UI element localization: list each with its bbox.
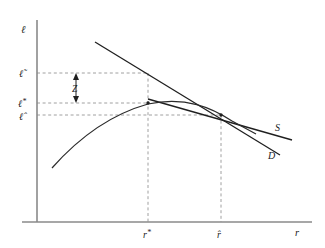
x-axis-label: r: [295, 227, 300, 238]
curve-label-s: S: [275, 122, 280, 133]
gap-arrow-head-down: [73, 96, 79, 103]
y-axis-label: ℓ: [21, 24, 26, 35]
x-tick-label-r-star: r*: [143, 228, 151, 241]
y-tick-label-ell-tilde: ℓ̃: [19, 68, 27, 79]
x-tick-label-r-star-superscript: *: [147, 228, 151, 237]
intersection-point-marker: [219, 113, 222, 116]
demand-line-d: [95, 42, 280, 155]
concave-curve: [52, 101, 256, 168]
y-tick-label-ell-star-superscript: *: [22, 97, 26, 106]
economics-diagram: ℓ r ℓ̃ ℓ* ℓ̂ r* r̂ Z S D: [0, 0, 325, 248]
y-tick-label-ell-star: ℓ*: [18, 97, 26, 110]
x-tick-label-r-hat: r̂: [217, 229, 221, 240]
supply-line-s: [148, 99, 292, 140]
figure-container: ℓ r ℓ̃ ℓ* ℓ̂ r* r̂ Z S D: [0, 0, 325, 248]
gap-arrow-head-up: [73, 73, 79, 80]
peak-point-marker: [146, 101, 149, 104]
curve-label-d: D: [267, 150, 276, 161]
y-tick-label-ell-hat: ℓ̂: [19, 111, 27, 122]
gap-label-z: Z: [72, 84, 78, 94]
